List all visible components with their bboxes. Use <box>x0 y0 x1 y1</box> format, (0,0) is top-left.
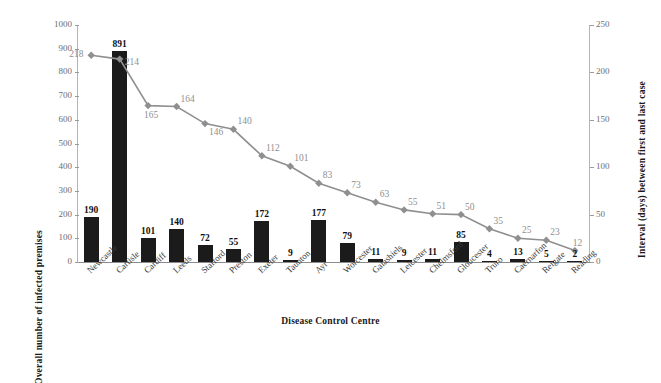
y-tick-label-left: 700 <box>30 90 72 100</box>
y-tick-label-right: 100 <box>596 161 610 171</box>
y-tick-mark-right <box>590 167 594 168</box>
line-value-label: 12 <box>573 238 583 248</box>
line-value-label: 164 <box>181 94 195 104</box>
y-tick-label-left: 900 <box>30 43 72 53</box>
bar-value-label: 190 <box>71 205 111 215</box>
line-value-label: 165 <box>144 110 158 120</box>
y-axis-right-spine <box>589 25 590 262</box>
bar-value-label: 140 <box>157 217 197 227</box>
line-value-label: 35 <box>493 216 503 226</box>
line-marker-icon <box>344 189 351 196</box>
chart-legend: Number of infected premises Interval (da… <box>0 338 661 378</box>
line-marker-icon <box>372 199 379 206</box>
line-marker-icon <box>88 52 95 59</box>
bar-value-label: 55 <box>213 237 253 247</box>
y-tick-label-left: 100 <box>30 232 72 242</box>
line-value-label: 25 <box>522 225 532 235</box>
line-marker-icon <box>144 102 151 109</box>
line-marker-icon <box>201 120 208 127</box>
y-tick-label-left: 600 <box>30 114 72 124</box>
line-marker-icon <box>514 235 521 242</box>
bar-value-label: 101 <box>128 226 168 236</box>
y-tick-label-left: 0 <box>30 256 72 266</box>
line-marker-icon <box>116 55 123 62</box>
line-marker-icon <box>315 180 322 187</box>
y-tick-mark-right <box>590 120 594 121</box>
line-marker-icon <box>429 210 436 217</box>
y-tick-mark-right <box>590 25 594 26</box>
bar-value-label: 891 <box>100 39 140 49</box>
bar-value-label: 172 <box>242 209 282 219</box>
bar-value-label: 85 <box>441 230 481 240</box>
line-marker-icon <box>486 225 493 232</box>
y-tick-label-left: 400 <box>30 161 72 171</box>
y-tick-label-left: 800 <box>30 66 72 76</box>
line-value-label: 83 <box>323 170 333 180</box>
bar-value-label: 79 <box>327 231 367 241</box>
y-tick-label-left: 300 <box>30 185 72 195</box>
y-tick-label-right: 150 <box>596 114 610 124</box>
bar-value-label: 177 <box>299 208 339 218</box>
y-tick-label-right: 50 <box>596 209 605 219</box>
line-value-label: 218 <box>69 49 83 59</box>
line-value-label: 51 <box>437 201 447 211</box>
y-axis-right-title: Interval (days) between first and last c… <box>637 81 647 258</box>
y-tick-mark-left <box>75 262 79 263</box>
y-tick-mark-right <box>590 215 594 216</box>
line-value-label: 101 <box>294 153 308 163</box>
line-marker-icon <box>400 206 407 213</box>
line-marker-icon <box>457 211 464 218</box>
line-value-label: 214 <box>125 57 139 67</box>
y-tick-mark-right <box>590 72 594 73</box>
y-tick-label-right: 200 <box>596 66 610 76</box>
y-tick-mark-right <box>590 262 594 263</box>
y-tick-label-left: 1000 <box>30 19 72 29</box>
y-tick-label-left: 500 <box>30 138 72 148</box>
line-value-label: 55 <box>408 197 418 207</box>
line-value-label: 23 <box>550 227 560 237</box>
chart-container: Overall number of infected premises Inte… <box>0 0 661 383</box>
y-tick-label-right: 0 <box>596 256 601 266</box>
line-value-label: 146 <box>209 127 223 137</box>
line-value-label: 50 <box>465 202 475 212</box>
line-marker-icon <box>173 103 180 110</box>
line-value-label: 112 <box>266 143 280 153</box>
y-tick-label-right: 250 <box>596 19 610 29</box>
line-value-label: 140 <box>237 116 251 126</box>
line-marker-icon <box>287 163 294 170</box>
line-value-label: 63 <box>380 189 390 199</box>
y-tick-label-left: 200 <box>30 209 72 219</box>
line-value-label: 73 <box>351 180 361 190</box>
x-axis-title: Disease Control Centre <box>0 316 661 326</box>
